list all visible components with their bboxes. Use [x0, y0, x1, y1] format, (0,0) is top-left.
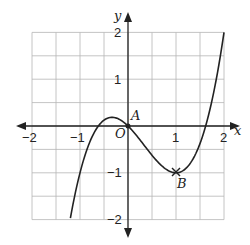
cubic-curve: [70, 32, 224, 218]
x-tick-2: 2: [220, 130, 227, 145]
point-a-label: A: [130, 108, 140, 123]
point-b-label: B: [176, 176, 187, 191]
x-tick-minus-1: −1: [70, 130, 85, 145]
y-axis-label: y: [113, 8, 122, 23]
y-tick-2: 2: [114, 25, 121, 40]
cubic-graph: x y O A B −2 −1 1 2 2 1 −1 −2: [0, 0, 250, 245]
y-axis-down-arrow-icon: [124, 228, 132, 238]
y-tick-minus-2: −2: [107, 212, 122, 227]
x-axis-left-arrow-icon: [16, 122, 26, 130]
point-a-marker: [126, 124, 131, 129]
origin-label: O: [115, 126, 126, 141]
y-tick-1: 1: [114, 72, 121, 87]
y-tick-minus-1: −1: [107, 165, 122, 180]
x-tick-1: 1: [172, 130, 179, 145]
y-axis-up-arrow-icon: [124, 12, 132, 22]
x-tick-minus-2: −2: [22, 130, 37, 145]
x-axis-label: x: [234, 123, 242, 138]
